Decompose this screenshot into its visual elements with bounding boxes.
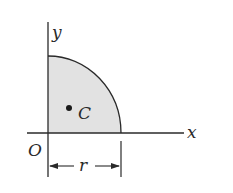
arrow-right-icon [111,163,120,169]
arrow-left-icon [49,163,58,169]
centroid-dot [66,105,72,111]
x-axis-label: x [187,122,197,142]
radius-label: r [79,155,88,175]
origin-label: O [28,140,42,160]
centroid-label: C [78,103,91,123]
quarter-circle-diagram: y x O C r [0,0,233,193]
y-axis-label: y [51,22,62,42]
